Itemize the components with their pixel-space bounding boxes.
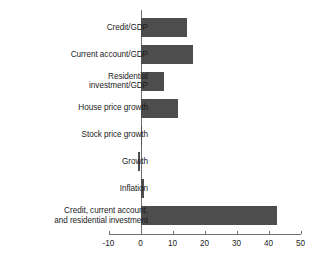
category-label: Credit/GDP [28, 23, 148, 33]
category-label: Credit, current account, and residential… [28, 206, 148, 225]
x-axis-tick [109, 231, 110, 234]
bar-chart: -1001020304050Credit/GDPCurrent account/… [0, 0, 324, 264]
category-label: Inflation [28, 184, 148, 194]
category-label: Stock price growth [28, 130, 148, 140]
x-axis-tick-label: 20 [200, 239, 209, 248]
x-axis-tick [269, 231, 270, 234]
x-axis-tick [237, 231, 238, 234]
x-axis-tick-label: 50 [296, 239, 305, 248]
x-axis-tick [205, 231, 206, 234]
category-label: Current account/GDP [28, 50, 148, 60]
category-label: Growth [28, 157, 148, 167]
bar [141, 206, 277, 225]
x-axis-line [109, 234, 301, 235]
category-label: Residential investment/GDP [28, 72, 148, 91]
x-axis-tick [301, 231, 302, 234]
x-axis-tick-label: 0 [138, 239, 143, 248]
zero-line [141, 10, 142, 234]
category-label: House price growth [28, 103, 148, 113]
x-axis-tick-label: 40 [264, 239, 273, 248]
x-axis-tick-label: -10 [103, 239, 115, 248]
plot-area: -1001020304050Credit/GDPCurrent account/… [0, 0, 324, 264]
x-axis-tick-label: 10 [168, 239, 177, 248]
bar [141, 45, 193, 64]
x-axis-tick-label: 30 [232, 239, 241, 248]
x-axis-tick [173, 231, 174, 234]
